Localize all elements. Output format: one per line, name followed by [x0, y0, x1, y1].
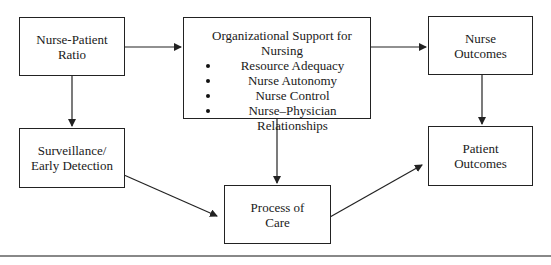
node-surveillance: Surveillance/ Early Detection	[19, 128, 125, 188]
node-nurse-outcomes: Nurse Outcomes	[428, 16, 533, 75]
node-label: Process of	[251, 200, 305, 215]
node-title: Organizational Support for Nursing	[194, 28, 370, 58]
arrow-surveillance-to-process	[124, 175, 217, 216]
bullet-item: Nurse Autonomy	[206, 73, 370, 88]
node-nurse-patient-ratio: Nurse-Patient Ratio	[19, 17, 125, 76]
node-process-of-care: Process of Care	[224, 185, 331, 244]
node-label: Care	[265, 215, 290, 230]
arrow-process-to-patient-outcomes	[330, 165, 422, 217]
node-label: Early Detection	[31, 158, 113, 173]
node-label: Nurse-Patient	[36, 32, 107, 47]
horizontal-rule	[0, 255, 551, 257]
node-label: Nurse	[465, 31, 496, 46]
bullet-item: Nurse Control	[206, 88, 370, 103]
node-label: Ratio	[58, 47, 86, 62]
node-patient-outcomes: Patient Outcomes	[428, 126, 533, 186]
bullet-item: Nurse–Physician Relationships	[206, 103, 370, 133]
node-label: Patient	[462, 141, 498, 156]
node-organizational-support: Organizational Support for Nursing Resou…	[183, 17, 371, 119]
node-label: Outcomes	[454, 46, 507, 61]
bullet-item: Resource Adequacy	[206, 58, 370, 73]
node-label: Surveillance/	[38, 143, 107, 158]
bullet-list: Resource Adequacy Nurse Autonomy Nurse C…	[194, 58, 370, 133]
node-label: Outcomes	[454, 156, 507, 171]
